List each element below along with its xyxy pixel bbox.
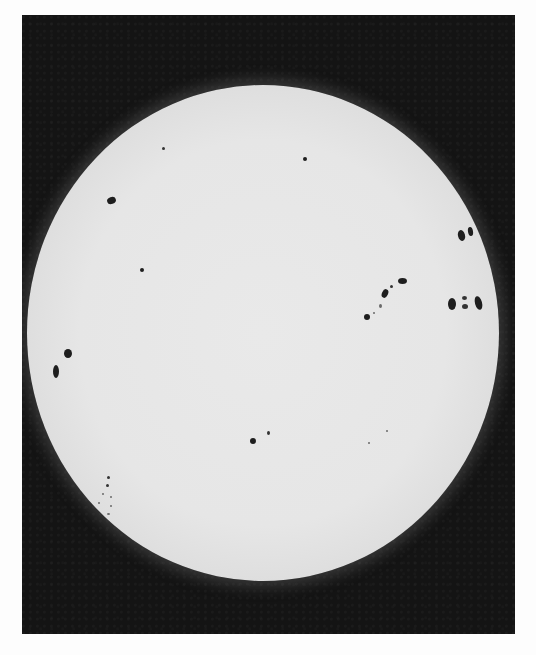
solar-disc (27, 85, 499, 581)
photo-frame (22, 15, 515, 634)
